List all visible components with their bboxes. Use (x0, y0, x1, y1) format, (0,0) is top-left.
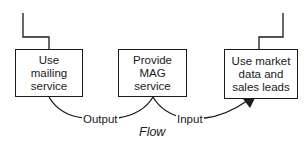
box-use-mailing-service: Use mailing service (15, 49, 83, 97)
box-provide-mag-service: Provide MAG service (118, 49, 187, 97)
box-label: Use market data and sales leads (230, 55, 292, 94)
left-box-parent-connector (23, 13, 49, 49)
output-label: Output (82, 113, 119, 125)
right-box-parent-connector (259, 13, 283, 49)
diagram-caption: Flow (139, 125, 165, 139)
box-use-market-data: Use market data and sales leads (224, 49, 298, 99)
input-label: Input (176, 113, 204, 125)
box-label: Use mailing service (21, 54, 77, 93)
box-label: Provide MAG service (121, 54, 185, 93)
